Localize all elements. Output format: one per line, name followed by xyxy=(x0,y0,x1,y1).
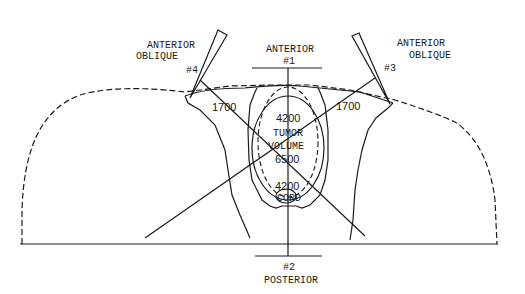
tumor-label-line2: VOLUME xyxy=(268,141,304,152)
beam-1-number: #1 xyxy=(283,56,295,67)
isodose-diagram: ANTERIOR OBLIQUE #4 ANTERIOR #1 ANTERIOR… xyxy=(0,0,525,294)
patient-outline xyxy=(22,85,497,244)
beam-4-label-line2: OBLIQUE xyxy=(136,51,178,62)
cord-label: CORD xyxy=(277,193,301,204)
isodose-4200-top-label: 4200 xyxy=(276,112,300,124)
isodose-6500-label: 6500 xyxy=(275,153,299,165)
isodose-4200-bottom-label: 4200 xyxy=(275,180,299,192)
beam-2-number: #2 xyxy=(283,262,295,273)
beam-3-label-line2: OBLIQUE xyxy=(409,50,451,61)
isodose-1700-right-label: 1700 xyxy=(336,100,360,112)
beam-4-number: #4 xyxy=(186,65,198,76)
beam-2-label: POSTERIOR xyxy=(264,275,318,286)
tumor-label-line1: TUMOR xyxy=(273,128,303,139)
beam-4-label-line1: ANTERIOR xyxy=(147,40,195,51)
beam-3-number: #3 xyxy=(384,63,396,74)
isodose-1700-left-label: 1700 xyxy=(212,101,236,113)
beam-3-label-line1: ANTERIOR xyxy=(397,38,445,49)
beam-1-label: ANTERIOR xyxy=(266,44,314,55)
